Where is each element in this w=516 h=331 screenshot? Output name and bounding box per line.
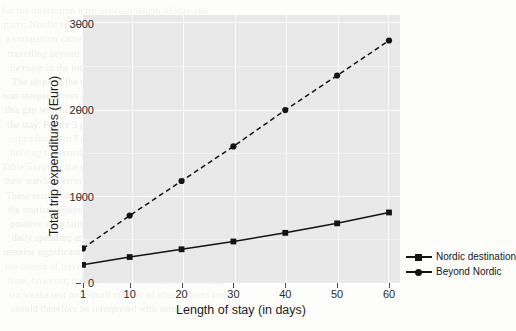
x-axis-tick-label: 1 xyxy=(80,288,86,300)
legend-key-square-icon xyxy=(406,251,432,263)
x-axis-tick-label: 10 xyxy=(124,288,136,300)
data-point-marker xyxy=(82,262,86,268)
y-axis-tick-label: 0 xyxy=(88,277,94,289)
legend-item-nordic-destination: Nordic destination xyxy=(406,249,516,264)
y-axis-tick-mark xyxy=(76,197,81,198)
y-axis-title: Total trip expenditures (Euro) xyxy=(47,26,61,286)
data-point-marker xyxy=(127,254,133,260)
x-axis-title: Length of stay (in days) xyxy=(82,303,400,317)
x-axis-tick-mark xyxy=(337,283,338,288)
data-point-marker xyxy=(127,212,133,218)
data-point-marker xyxy=(231,239,237,245)
x-axis-tick-mark xyxy=(83,283,84,288)
data-point-marker xyxy=(282,107,288,113)
y-axis-tick-label: 3000 xyxy=(70,18,94,30)
y-axis-tick-label: 2000 xyxy=(70,104,94,116)
y-axis-tick-mark xyxy=(76,24,81,25)
bleed-text-line: six weeks rest on a small number of obse… xyxy=(9,290,227,300)
legend-key-circle-icon xyxy=(406,266,432,278)
x-axis-tick-mark xyxy=(285,283,286,288)
data-point-marker xyxy=(334,220,340,226)
x-axis-tick-mark xyxy=(233,283,234,288)
y-axis-tick-label: 1000 xyxy=(70,191,94,203)
data-point-marker xyxy=(386,210,392,216)
x-axis-tick-mark xyxy=(130,283,131,288)
x-axis-tick-label: 30 xyxy=(227,288,239,300)
y-axis-tick-mark xyxy=(76,110,81,111)
x-axis-tick-label: 50 xyxy=(331,288,343,300)
chart-legend: Nordic destination Beyond Nordic xyxy=(406,249,516,279)
data-series-layer xyxy=(82,15,400,283)
y-axis-tick-mark xyxy=(76,283,81,284)
data-point-marker xyxy=(179,246,185,252)
data-point-marker xyxy=(282,230,288,236)
data-point-marker xyxy=(334,72,340,78)
x-axis-tick-mark xyxy=(182,283,183,288)
data-point-marker xyxy=(386,37,392,43)
x-axis-tick-label: 60 xyxy=(383,288,395,300)
x-axis-tick-mark xyxy=(389,283,390,288)
legend-item-beyond-nordic: Beyond Nordic xyxy=(406,264,516,279)
plot-panel xyxy=(82,15,400,283)
legend-label: Beyond Nordic xyxy=(436,266,502,277)
data-point-marker xyxy=(178,178,184,184)
legend-label: Nordic destination xyxy=(436,251,516,262)
data-point-marker xyxy=(230,143,236,149)
x-axis-tick-label: 20 xyxy=(175,288,187,300)
x-axis-tick-label: 40 xyxy=(279,288,291,300)
